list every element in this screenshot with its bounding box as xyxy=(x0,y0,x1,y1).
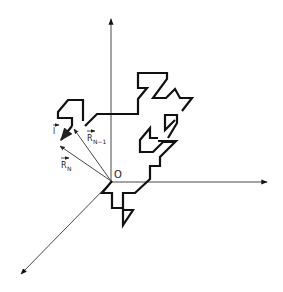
svg-text:l: l xyxy=(53,127,55,136)
step-vector-arrow xyxy=(61,126,72,140)
random-walk-path xyxy=(58,73,192,225)
svg-text:N−1: N−1 xyxy=(93,138,107,145)
svg-text:N: N xyxy=(67,165,72,172)
depth-axis xyxy=(21,182,111,274)
origin-label: O xyxy=(114,169,122,180)
r-n-minus-1-label: R N−1 xyxy=(87,131,107,145)
step-vector-label: l xyxy=(53,125,59,136)
r-n-label: R N xyxy=(61,158,72,172)
diagram-canvas: O l R N−1 R N xyxy=(0,0,283,292)
position-vector-r-n xyxy=(60,146,111,181)
random-walk-diagram: O l R N−1 R N xyxy=(0,0,283,292)
